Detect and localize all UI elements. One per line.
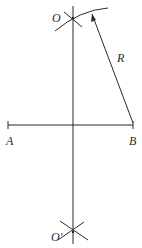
- point-o-prime: [72, 231, 74, 233]
- arc-radius-r: [55, 8, 108, 31]
- construction-diagram: O R A B O': [0, 0, 142, 248]
- label-o-prime: O': [51, 230, 63, 244]
- label-o: O: [52, 11, 61, 25]
- label-a: A: [5, 134, 14, 148]
- cross-mark-o-prime-1: [60, 221, 88, 240]
- label-r: R: [116, 51, 125, 65]
- radius-line: [92, 14, 133, 123]
- label-b: B: [129, 134, 137, 148]
- radius-arrowhead-icon: [91, 14, 96, 22]
- point-o: [72, 17, 74, 19]
